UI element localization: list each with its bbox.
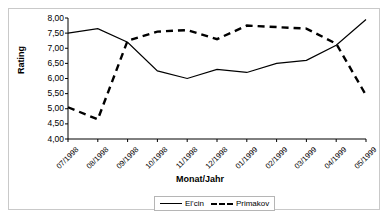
x-axis-title: Monat/Jahr — [140, 174, 260, 184]
legend-item-primakov: Primakov — [211, 199, 269, 208]
legend-swatch-solid-icon — [160, 203, 182, 204]
legend-label-primakov: Primakov — [236, 199, 269, 208]
legend-item-elcin: El'cin — [160, 199, 204, 208]
x-axis-tick-labels: 07/199808/199809/199810/199811/199812/19… — [0, 0, 390, 223]
legend-swatch-dashed-icon — [211, 203, 233, 205]
chart-container: Rating 8,007,507,006,506,005,505,004,504… — [0, 0, 390, 223]
chart-legend: El'cin Primakov — [154, 196, 275, 211]
legend-label-elcin: El'cin — [185, 199, 204, 208]
